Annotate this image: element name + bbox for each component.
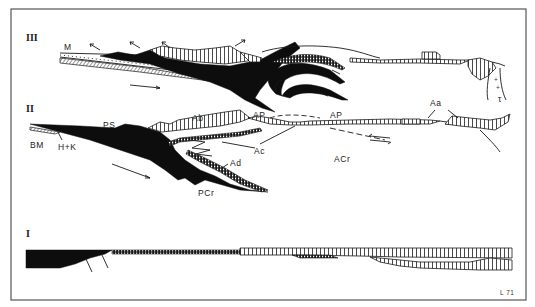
symbol-tau: τ bbox=[498, 94, 502, 104]
section-i: I bbox=[26, 228, 512, 272]
label-ps: PS bbox=[103, 120, 116, 130]
figure-code-label: L 71 bbox=[500, 289, 514, 296]
label-ap-left: AP bbox=[253, 110, 266, 120]
label-bm: BM bbox=[30, 140, 44, 150]
label-acr: ACr bbox=[334, 154, 350, 164]
label-pcr: PCr bbox=[198, 188, 214, 198]
label-ab: Ab bbox=[192, 113, 204, 123]
plus-marks: + bbox=[494, 76, 498, 83]
section-iii-label: III bbox=[26, 32, 38, 43]
section-ii-label: II bbox=[26, 103, 34, 114]
section-ii: II BM H+K PS Ab bbox=[26, 98, 510, 198]
label-h-k: H+K bbox=[58, 142, 77, 152]
label-aa: Aa bbox=[430, 98, 442, 108]
section-i-label: I bbox=[26, 228, 30, 239]
plus-marks: + bbox=[496, 84, 500, 91]
label-ad: Ad bbox=[230, 158, 242, 168]
label-m: M bbox=[64, 42, 72, 52]
geologic-cross-section-figure: III M τ + + bbox=[0, 0, 535, 307]
label-ac: Ac bbox=[254, 146, 265, 156]
label-ap-right: AP bbox=[330, 110, 343, 120]
